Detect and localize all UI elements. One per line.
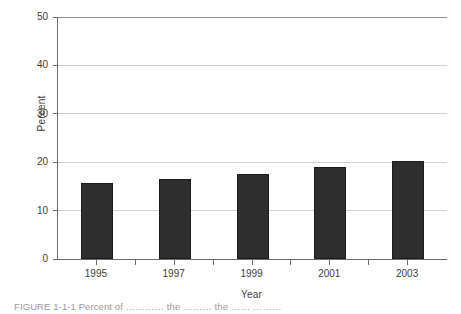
x-tick-mark-2003 bbox=[407, 260, 408, 265]
scan-artifact bbox=[227, 246, 231, 258]
y-tick-mark-30 bbox=[53, 113, 58, 114]
x-tick-mark-minor-1 bbox=[135, 260, 136, 265]
y-tick-mark-10 bbox=[53, 210, 58, 211]
figure-caption-strip: FIGURE 1-1-1 Percent of ………… the ……… the… bbox=[0, 303, 461, 314]
x-tick-label-2001: 2001 bbox=[299, 268, 359, 279]
bar-2003 bbox=[392, 161, 424, 259]
x-tick-mark-minor-4 bbox=[368, 260, 369, 265]
x-tick-mark-minor-2 bbox=[213, 260, 214, 265]
figure-caption: FIGURE 1-1-1 Percent of ………… the ……… the… bbox=[14, 303, 282, 312]
x-tick-label-2003: 2003 bbox=[377, 268, 437, 279]
y-tick-label-20: 20 bbox=[22, 157, 48, 167]
x-tick-mark-1995 bbox=[96, 260, 97, 265]
x-tick-mark-2001 bbox=[329, 260, 330, 265]
y-tick-label-50: 50 bbox=[22, 12, 48, 22]
y-tick-mark-20 bbox=[53, 162, 58, 163]
y-tick-label-30: 30 bbox=[22, 109, 48, 119]
x-tick-label-1999: 1999 bbox=[222, 268, 282, 279]
y-tick-label-0: 0 bbox=[22, 254, 48, 264]
bar-1999 bbox=[237, 174, 269, 259]
gridline-20 bbox=[58, 162, 447, 163]
bar-1997 bbox=[159, 179, 191, 259]
x-axis: 19951997199920012003 bbox=[57, 260, 446, 282]
bar-chart-figure: Percent 01020304050 19951997199920012003… bbox=[0, 0, 461, 314]
bar-2001 bbox=[314, 167, 346, 259]
gridline-50 bbox=[58, 17, 447, 18]
x-axis-title: Year bbox=[57, 289, 446, 300]
gridline-40 bbox=[58, 65, 447, 66]
y-tick-label-10: 10 bbox=[22, 206, 48, 216]
x-tick-mark-1997 bbox=[174, 260, 175, 265]
x-tick-mark-1999 bbox=[252, 260, 253, 265]
x-tick-label-1997: 1997 bbox=[144, 268, 204, 279]
plot-area: 01020304050 bbox=[57, 17, 447, 260]
y-tick-mark-50 bbox=[53, 17, 58, 18]
y-tick-mark-40 bbox=[53, 65, 58, 66]
y-tick-label-40: 40 bbox=[22, 60, 48, 70]
bar-1995 bbox=[81, 183, 113, 259]
x-tick-label-1995: 1995 bbox=[66, 268, 126, 279]
gridline-30 bbox=[58, 113, 447, 114]
x-tick-mark-minor-3 bbox=[290, 260, 291, 265]
